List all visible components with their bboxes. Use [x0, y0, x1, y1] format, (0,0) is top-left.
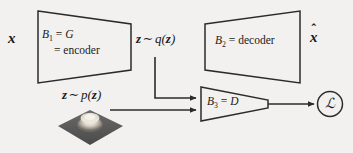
- latent-prior-label: z∼p(z): [62, 88, 101, 102]
- x-hat-glyph: x̂: [310, 30, 318, 46]
- latent-posterior-arg: (z): [161, 31, 175, 46]
- decoder-role-text: decoder: [238, 34, 274, 46]
- latent-posterior-label: z∼q(z): [136, 32, 175, 46]
- encoder-block-label-line1: B1 = G: [42, 28, 74, 44]
- zq-to-discriminator-connector: [155, 57, 196, 98]
- encoder-role-text: = encoder: [54, 44, 100, 56]
- encoder-block-label-line2: = encoder: [54, 44, 100, 56]
- discriminator-block-label: B3 = D: [207, 95, 239, 111]
- encoder-value: G: [65, 28, 73, 40]
- discriminator-equals-sign: =: [221, 95, 230, 107]
- tilde-icon: ∼: [67, 87, 81, 102]
- diagram-canvas: x B1 = G = encoder z∼q(z) B2 = decoder x…: [0, 0, 353, 153]
- input-label-x: x: [8, 31, 16, 47]
- loss-symbol-label: ℒ: [319, 93, 341, 115]
- encoder-symbol: B1: [42, 28, 53, 40]
- discriminator-value: D: [230, 95, 238, 107]
- discriminator-symbol: B3: [207, 95, 218, 107]
- decoder-block-label: B2 = decoder: [215, 34, 275, 50]
- tilde-icon: ∼: [141, 31, 155, 46]
- gaussian-prior-surface: [58, 110, 123, 145]
- encoder-equals-sign: =: [56, 28, 65, 40]
- output-label-x-hat: x̂: [310, 30, 318, 46]
- latent-prior-arg: (z): [87, 87, 101, 102]
- decoder-symbol: B2: [215, 34, 226, 46]
- decoder-equals-sign: =: [229, 34, 238, 46]
- diagram-vector-layer: [0, 0, 353, 153]
